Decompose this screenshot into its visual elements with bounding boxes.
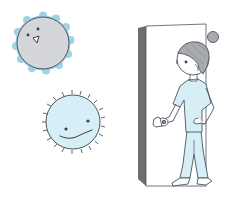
gray-virus [12,12,75,75]
door-edge [138,26,146,186]
illustration-canvas [0,0,243,197]
eye-icon [86,119,89,122]
hair-bun [208,32,219,43]
eye-icon [27,34,30,37]
eye-icon [64,127,67,130]
shoe [197,178,212,185]
virus-body [17,17,69,69]
blue-virus [42,90,105,154]
virus-body [46,95,100,149]
eye-icon [185,61,188,64]
eye-icon [37,28,40,31]
